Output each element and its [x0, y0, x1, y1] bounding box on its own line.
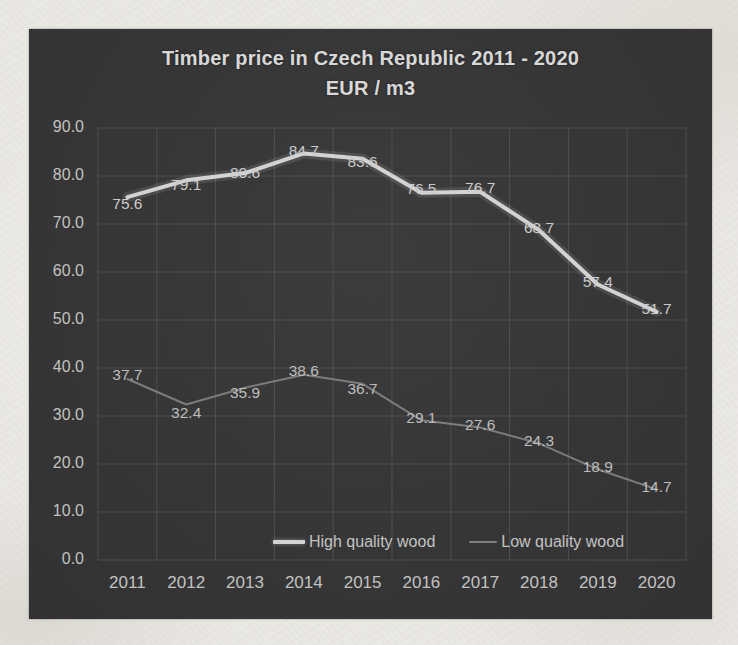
x-axis-tick-label: 2018 [520, 573, 558, 592]
y-axis-tick-label: 30.0 [53, 406, 84, 423]
data-label-low: 37.7 [112, 366, 142, 383]
data-label-high: 51.7 [642, 300, 672, 317]
data-label-high: 75.6 [112, 195, 142, 212]
legend-line-swatch-high [273, 540, 305, 544]
y-axis-tick-label: 90.0 [53, 118, 84, 135]
legend-line-swatch-low [469, 541, 497, 543]
data-label-high: 79.1 [171, 176, 201, 193]
y-axis-tick-label: 70.0 [53, 214, 84, 231]
data-label-low: 38.6 [289, 362, 319, 379]
x-axis-tick-label: 2012 [167, 573, 205, 592]
legend-item-high-quality: High quality wood [273, 533, 435, 551]
y-axis-tick-label: 40.0 [53, 358, 84, 375]
data-label-low: 14.7 [642, 478, 672, 495]
data-label-high: 68.7 [524, 219, 554, 236]
x-axis-tick-label: 2016 [402, 573, 440, 592]
y-axis-tick-label: 60.0 [53, 262, 84, 279]
data-label-low: 35.9 [230, 384, 260, 401]
data-label-low: 29.1 [406, 409, 436, 426]
x-axis-tick-label: 2017 [461, 573, 499, 592]
y-axis-tick-label: 50.0 [53, 310, 84, 327]
data-label-high: 76.5 [406, 180, 436, 197]
data-label-low: 27.6 [465, 416, 495, 433]
x-axis-tick-label: 2013 [226, 573, 264, 592]
x-axis-tick-label: 2020 [638, 573, 676, 592]
data-label-high: 80.6 [230, 164, 260, 181]
data-label-high: 76.7 [465, 179, 495, 196]
data-label-low: 36.7 [348, 380, 378, 397]
data-label-low: 32.4 [171, 404, 202, 421]
scanned-page: Timber price in Czech Republic 2011 - 20… [0, 0, 738, 645]
legend: High quality wood Low quality wood [273, 531, 624, 553]
y-axis-tick-label: 0.0 [62, 550, 84, 567]
data-label-low: 18.9 [583, 458, 613, 475]
y-axis-tick-label: 80.0 [53, 166, 84, 183]
x-axis-tick-label: 2014 [285, 573, 323, 592]
legend-label-low: Low quality wood [501, 533, 624, 551]
timber-price-chart: Timber price in Czech Republic 2011 - 20… [29, 29, 712, 619]
x-axis-tick-label: 2019 [579, 573, 617, 592]
legend-item-low-quality: Low quality wood [469, 533, 624, 551]
x-axis-tick-label: 2011 [109, 573, 146, 592]
data-label-high: 57.4 [583, 273, 614, 290]
data-label-high: 83.6 [348, 153, 378, 170]
legend-label-high: High quality wood [309, 533, 435, 551]
y-axis-tick-label: 10.0 [53, 502, 84, 519]
y-axis-tick-label: 20.0 [53, 454, 84, 471]
x-axis-tick-label: 2015 [344, 573, 382, 592]
data-label-low: 24.3 [524, 432, 554, 449]
data-label-high: 84.7 [289, 142, 319, 159]
